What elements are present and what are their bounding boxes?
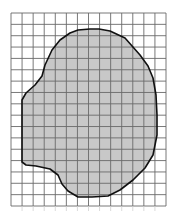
grid-figure	[0, 0, 175, 217]
figure-description: Irregular shaded shape drawn on square g…	[0, 0, 175, 7]
